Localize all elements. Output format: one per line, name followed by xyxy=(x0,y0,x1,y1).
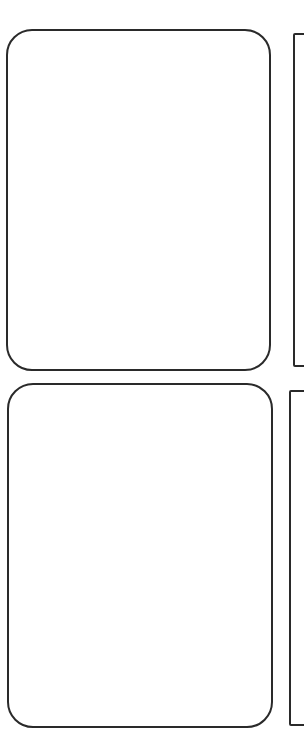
card-top-left xyxy=(6,29,271,371)
card-top-right xyxy=(293,33,304,367)
card-bottom-left xyxy=(7,383,273,728)
card-bottom-right xyxy=(289,390,304,726)
